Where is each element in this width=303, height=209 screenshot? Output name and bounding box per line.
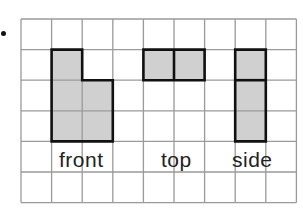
label-side: side (232, 148, 273, 172)
grid-lines (21, 19, 296, 203)
label-top: top (161, 148, 192, 172)
grid-diagram (20, 18, 300, 208)
shaded-cells (52, 50, 266, 142)
list-bullet (1, 31, 6, 36)
label-front: front (59, 148, 104, 172)
